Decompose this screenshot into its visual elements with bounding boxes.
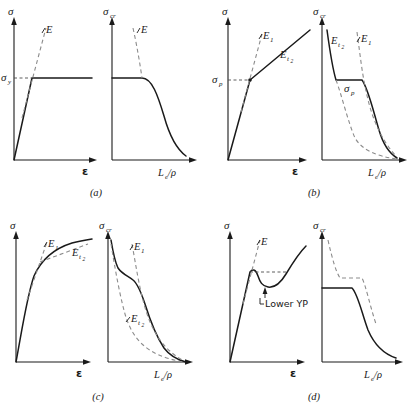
svg-text:1: 1 bbox=[55, 244, 59, 252]
svg-text:σ: σ bbox=[212, 73, 218, 85]
figure-container: σ y σ ε E σ cr E bbox=[0, 0, 420, 420]
panel-a-column-curve bbox=[112, 78, 186, 156]
panel-b-slenderness-label: L e /ρ bbox=[367, 167, 386, 181]
panel-b-euler-dashed-e1 bbox=[357, 32, 396, 156]
panel-d-sigma-axis-label: σ bbox=[224, 219, 230, 231]
svg-text:2: 2 bbox=[83, 256, 86, 262]
panel-a-euler-dashed bbox=[133, 28, 142, 78]
svg-text:E: E bbox=[262, 30, 270, 41]
svg-text:E: E bbox=[360, 33, 368, 44]
svg-text:/ρ: /ρ bbox=[373, 369, 382, 380]
panel-b-modulus1-label: E 1 bbox=[262, 30, 274, 44]
panel-a-modulus-tick bbox=[42, 28, 45, 33]
panel-a-caption: (a) bbox=[90, 187, 103, 199]
svg-text:E: E bbox=[71, 247, 79, 258]
panel-d-right-axes bbox=[319, 231, 403, 365]
panel-d-lower-yp-leader bbox=[260, 298, 264, 304]
svg-text:σ: σ bbox=[99, 219, 105, 231]
panel-d-strain-axis-label: ε bbox=[290, 367, 296, 380]
svg-text:L: L bbox=[157, 167, 164, 178]
panel-a-right-axes bbox=[109, 17, 197, 163]
svg-text:2: 2 bbox=[342, 44, 345, 50]
panel-c-right-axes bbox=[105, 231, 193, 365]
panel-d-slenderness-label: L e /ρ bbox=[363, 369, 382, 383]
svg-text:σ: σ bbox=[313, 5, 319, 17]
panel-a-stress-strain-curve bbox=[14, 78, 92, 160]
panel-d-modulus-label: E bbox=[260, 236, 268, 247]
panel-c-euler-dashed-e1 bbox=[132, 244, 184, 361]
svg-text:/ρ: /ρ bbox=[167, 167, 176, 178]
svg-text:σ: σ bbox=[313, 219, 319, 231]
panel-b-strain-axis-label: ε bbox=[292, 165, 298, 178]
panel-c-sigma-axis-label: σ bbox=[10, 219, 16, 231]
svg-text:2: 2 bbox=[142, 322, 145, 328]
panel-a: σ y σ ε E σ cr E bbox=[0, 0, 210, 210]
panel-a-yield-label: σ y bbox=[1, 71, 12, 86]
panel-d: Lower YP σ ε E σ cr L e /ρ bbox=[210, 210, 420, 420]
svg-text:/ρ: /ρ bbox=[377, 167, 386, 178]
svg-text:E: E bbox=[47, 238, 55, 249]
svg-text:cr: cr bbox=[320, 226, 326, 234]
svg-text:cr: cr bbox=[110, 12, 116, 20]
panel-c-left-axes bbox=[13, 231, 91, 365]
panel-d-caption: (d) bbox=[308, 391, 321, 403]
svg-text:1: 1 bbox=[270, 36, 274, 44]
panel-b-right-modulus2-label: E t 2 bbox=[330, 35, 345, 50]
panel-d-upper-yp-dashed bbox=[328, 240, 376, 324]
svg-text:σ: σ bbox=[344, 82, 350, 94]
panel-a-modulus-label: E bbox=[45, 24, 53, 35]
panel-c-modulus1-label: E 1 bbox=[47, 238, 59, 252]
panel-d-lower-yp-label: Lower YP bbox=[265, 298, 308, 309]
svg-text:σ: σ bbox=[103, 5, 109, 17]
svg-text:1: 1 bbox=[368, 39, 372, 47]
svg-text:σ: σ bbox=[1, 71, 7, 83]
panel-c-euler-dashed-et2 bbox=[111, 244, 184, 362]
panel-b-sigma-axis-label: σ bbox=[222, 5, 228, 17]
panel-c: σ ε E 1 E t 2 bbox=[0, 210, 210, 420]
panel-b-stress-strain-curve bbox=[228, 30, 310, 160]
svg-text:cr: cr bbox=[320, 12, 326, 20]
svg-text:E: E bbox=[330, 35, 338, 46]
panel-a-sigma-axis-label: σ bbox=[8, 5, 14, 17]
panel-d-sigma-cr-label: σ cr bbox=[313, 219, 326, 234]
panel-b-column-curve bbox=[327, 30, 397, 158]
panel-b-prop-limit-label: σ p bbox=[212, 73, 223, 88]
panel-c-right-modulus2-label: E t 2 bbox=[130, 313, 145, 328]
svg-text:2: 2 bbox=[291, 58, 294, 64]
svg-text:y: y bbox=[7, 78, 12, 86]
svg-text:E: E bbox=[133, 241, 141, 252]
panel-c-modulus2-label: E t 2 bbox=[71, 247, 86, 262]
svg-text:E: E bbox=[130, 313, 138, 324]
svg-text:/ρ: /ρ bbox=[163, 369, 172, 380]
svg-text:p: p bbox=[350, 89, 355, 97]
svg-text:L: L bbox=[363, 369, 370, 380]
panel-b-right-modulus1-label: E 1 bbox=[360, 33, 372, 47]
svg-text:L: L bbox=[367, 167, 374, 178]
panel-a-right-modulus-tick bbox=[137, 28, 140, 33]
panel-a-right-modulus-label: E bbox=[140, 24, 148, 35]
panel-c-right-modulus1-label: E 1 bbox=[133, 241, 145, 255]
panel-b: σ p σ ε E 1 E t 2 bbox=[210, 0, 420, 210]
panel-b-modulus2-label: E t 2 bbox=[279, 49, 294, 64]
panel-c-caption: (c) bbox=[92, 391, 104, 403]
panel-b-caption: (b) bbox=[308, 187, 321, 199]
panel-b-sigma-cr-label: σ cr bbox=[313, 5, 326, 20]
svg-text:1: 1 bbox=[141, 247, 145, 255]
svg-text:p: p bbox=[218, 80, 223, 88]
panel-c-slenderness-label: L e /ρ bbox=[153, 369, 172, 383]
panel-b-right-prop-limit-label: σ p bbox=[344, 82, 355, 97]
panel-c-modulus1-line bbox=[27, 242, 47, 300]
svg-text:E: E bbox=[279, 49, 287, 60]
svg-text:cr: cr bbox=[106, 226, 112, 234]
svg-text:L: L bbox=[153, 369, 160, 380]
panel-a-strain-axis-label: ε bbox=[82, 165, 88, 178]
panel-c-strain-axis-label: ε bbox=[76, 367, 82, 380]
panel-a-slenderness-label: L e /ρ bbox=[157, 167, 176, 181]
panel-c-sigma-cr-label: σ cr bbox=[99, 219, 112, 234]
panel-a-left-axes bbox=[11, 17, 97, 163]
panel-d-lower-yp-arrowhead bbox=[263, 287, 268, 294]
panel-d-column-curve bbox=[322, 288, 396, 358]
panel-a-sigma-cr-label: σ cr bbox=[103, 5, 116, 20]
